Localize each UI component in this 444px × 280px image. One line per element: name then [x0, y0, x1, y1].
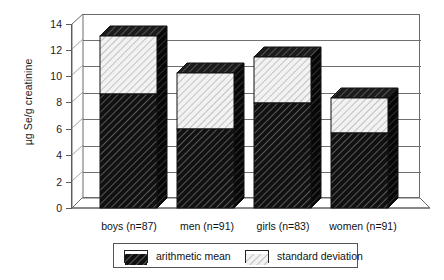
y-tick-label-14: 14 [36, 19, 62, 30]
chart-left-wall [72, 14, 83, 208]
y-tick-label-6: 6 [36, 124, 62, 135]
y-tick-mark-10 [66, 76, 72, 77]
y-tick-mark-0 [66, 208, 72, 209]
plot-area: 0 2 4 6 8 10 12 14 [0, 0, 444, 280]
y-tick-mark-6 [66, 129, 72, 130]
y-tick-mark-14 [66, 24, 72, 25]
legend-entry-standard-deviation: standard deviation [245, 249, 363, 263]
legend-label-arithmetic-mean: arithmetic mean [156, 250, 231, 262]
y-tick-label-10: 10 [36, 71, 62, 82]
bar-girls [254, 20, 334, 220]
y-tick-mark-8 [66, 102, 72, 103]
bar-boys [100, 20, 180, 220]
x-tick-label-women: women (n=91) [311, 221, 415, 232]
legend-swatch-mean-icon [124, 250, 148, 263]
bar-men [177, 20, 257, 220]
y-tick-label-8: 8 [36, 97, 62, 108]
legend-label-standard-deviation: standard deviation [277, 250, 363, 262]
y-tick-label-12: 12 [36, 45, 62, 56]
chart-legend: arithmetic mean standard deviation [113, 243, 358, 268]
legend-swatch-sd-icon [245, 250, 269, 263]
y-axis-tick-labels: 0 2 4 6 8 10 12 14 [36, 0, 62, 280]
y-tick-mark-2 [66, 182, 72, 183]
y-tick-label-4: 4 [36, 150, 62, 161]
bar-chart-figure: µg Se/g creatinine [0, 0, 444, 280]
y-tick-label-2: 2 [36, 177, 62, 188]
y-tick-mark-12 [66, 50, 72, 51]
y-tick-mark-4 [66, 155, 72, 156]
legend-entry-arithmetic-mean: arithmetic mean [124, 249, 231, 263]
bar-women [331, 20, 411, 220]
y-tick-label-0: 0 [36, 203, 62, 214]
